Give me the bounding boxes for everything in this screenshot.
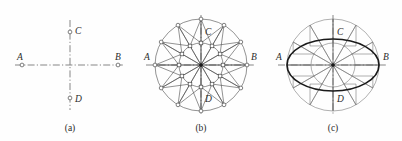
chord-b	[212, 84, 241, 88]
axis-label-c-panel-a: C	[75, 26, 82, 36]
figure-container: ABCD(a)ABCD(b)ABCD(c)	[0, 0, 402, 141]
endpoint-marker-d-a	[68, 96, 72, 100]
outer-node-b	[176, 23, 180, 27]
ellipse-construction-diagram: ABCD(a)ABCD(b)ABCD(c)	[0, 0, 402, 141]
outer-node-b	[239, 40, 243, 44]
panel-a	[15, 20, 125, 110]
axis-label-b-panel-b: B	[251, 52, 257, 62]
chord-b	[220, 25, 224, 54]
outer-node-b	[176, 103, 180, 107]
outer-node-b	[245, 63, 249, 67]
center-hub-c	[331, 63, 334, 66]
outer-node-b	[199, 17, 203, 21]
axis-label-b-panel-c: B	[383, 52, 389, 62]
inner-node-b	[188, 82, 192, 86]
chord-b	[178, 25, 182, 54]
axis-label-a-panel-b: A	[143, 52, 150, 62]
inner-node-b	[210, 82, 214, 86]
inner-node-b	[210, 44, 214, 48]
axis-label-d-panel-c: D	[336, 94, 344, 104]
outer-node-b	[199, 109, 203, 113]
axis-label-c-panel-c: C	[337, 27, 344, 37]
axis-label-c-panel-b: C	[205, 27, 212, 37]
axis-label-a-panel-c: A	[275, 52, 282, 62]
caption-panel-b: (b)	[195, 123, 206, 134]
inner-node-b	[221, 63, 225, 67]
outer-node-b	[239, 86, 243, 90]
axis-label-d-panel-a: D	[74, 94, 82, 104]
inner-node-b	[180, 74, 184, 78]
chord-b	[220, 76, 224, 105]
outer-node-b	[222, 103, 226, 107]
inner-node-b	[218, 74, 222, 78]
chord-b	[161, 42, 190, 46]
axis-label-b-panel-a: B	[115, 52, 121, 62]
axis-label-d-panel-b: D	[204, 94, 212, 104]
inner-node-b	[218, 52, 222, 56]
outer-node-b	[159, 86, 163, 90]
inner-node-b	[177, 63, 181, 67]
inner-node-b	[188, 44, 192, 48]
endpoint-marker-b-a	[116, 63, 120, 67]
outer-node-b	[159, 40, 163, 44]
outer-node-b	[222, 23, 226, 27]
panel-b	[146, 15, 256, 115]
endpoint-marker-c-a	[68, 30, 72, 34]
axis-label-a-panel-a: A	[16, 52, 23, 62]
inner-node-b	[199, 41, 203, 45]
outer-node-b	[153, 63, 157, 67]
panel-c	[278, 15, 388, 115]
chord-b	[161, 84, 190, 88]
chord-b	[212, 42, 241, 46]
caption-panel-c: (c)	[328, 123, 339, 134]
endpoint-marker-a-a	[20, 63, 24, 67]
chord-b	[178, 76, 182, 105]
center-hub-b	[199, 63, 202, 66]
caption-panel-a: (a)	[65, 123, 76, 134]
inner-node-b	[199, 85, 203, 89]
inner-node-b	[180, 52, 184, 56]
